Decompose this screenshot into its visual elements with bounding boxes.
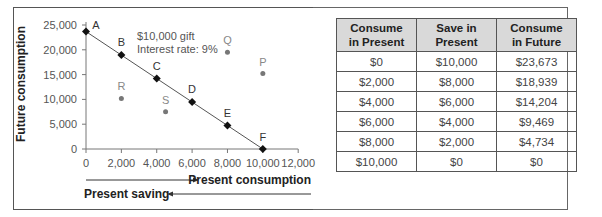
x-tick-label: 12,000 [281,157,315,169]
gray-dot-marker [119,96,124,101]
point-label: S [162,94,169,106]
diamond-marker [117,51,125,59]
header-consume-future: Consumein Future [497,19,577,52]
gift-annotation: $10,000 gift [137,30,195,42]
interest-annotation: Interest rate: 9% [137,43,218,55]
header-save-present: Save inPresent [417,19,497,52]
table-row: $2,000 $8,000 $18,939 [337,72,577,92]
gray-dot-marker [163,109,168,114]
x-tick-label: 2,000 [108,157,136,169]
table-row: $8,000 $2,000 $4,734 [337,132,577,152]
x-tick-label: 0 [83,157,89,169]
y-tick-label: 10,000 [43,93,77,105]
diamond-marker [82,28,90,36]
y-tick-label: 15,000 [43,69,77,81]
header-consume-present: Consumein Present [337,19,417,52]
savings-table: Consumein Present Save inPresent Consume… [336,18,577,172]
point-label: C [153,60,161,72]
gray-dot-marker [260,71,265,76]
point-label: Q [223,34,232,46]
table-row: $0 $10,000 $23,673 [337,52,577,72]
point-label: E [224,107,231,119]
table-row: $10,000 $0 $0 [337,152,577,172]
point-label: A [92,19,100,31]
diamond-marker [153,75,161,83]
table-row: $6,000 $4,000 $9,469 [337,112,577,132]
x-tick-label: 6,000 [178,157,206,169]
point-label: R [117,80,125,92]
x-tick-label: 4,000 [143,157,171,169]
point-label: F [259,131,266,143]
diamond-marker [223,122,231,130]
x-tick-label: 10,000 [246,157,280,169]
y-tick-label: 25,000 [43,19,77,31]
y-tick-label: 20,000 [43,44,77,56]
x-tick-label: 8,000 [214,157,242,169]
y-axis-title: Future consumption [14,32,28,142]
gray-dot-marker [225,50,230,55]
point-label: P [259,56,266,68]
y-tick-label: 5,000 [49,118,77,130]
table-row: $4,000 $6,000 $14,204 [337,92,577,112]
saving-axis-title: Present saving [84,187,169,201]
diamond-marker [188,98,196,106]
y-tick-label: 0 [71,143,77,155]
diamond-marker [259,145,267,153]
point-label: B [118,36,125,48]
x-axis-title: Present consumption [188,173,311,187]
point-label: D [188,83,196,95]
